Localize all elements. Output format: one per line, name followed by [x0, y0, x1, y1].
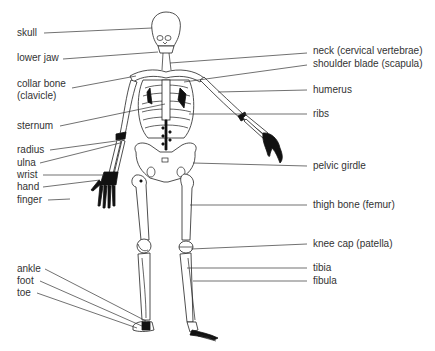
right-arm	[200, 77, 282, 163]
label-radius: radius	[17, 144, 44, 156]
label-toe: toe	[17, 287, 31, 299]
label-neck: neck (cervical vertebrae)	[313, 45, 422, 57]
label-ankle: ankle	[17, 263, 41, 275]
label-ribs: ribs	[313, 108, 329, 120]
right-leg	[179, 174, 218, 341]
label-finger: finger	[17, 194, 42, 206]
left-leg	[132, 175, 154, 332]
label-humerus: humerus	[313, 84, 352, 96]
label-wrist: wrist	[17, 169, 38, 181]
skull-shape	[152, 12, 181, 53]
label-tibia: tibia	[313, 262, 331, 274]
label-fibula: fibula	[313, 275, 337, 287]
label-shoulder-blade: shoulder blade (scapula)	[313, 58, 423, 70]
label-foot: foot	[17, 275, 34, 287]
label-lower-jaw: lower jaw	[17, 52, 59, 64]
label-hand: hand	[17, 181, 39, 193]
left-arm	[91, 80, 137, 208]
label-thigh-bone: thigh bone (femur)	[313, 199, 395, 211]
skeleton-diagram: skull lower jaw collar bone (clavicle) s…	[0, 0, 435, 351]
label-skull: skull	[17, 27, 37, 39]
label-sternum: sternum	[17, 120, 53, 132]
label-knee-cap: knee cap (patella)	[313, 238, 393, 250]
label-collar-bone: collar bone	[17, 78, 66, 90]
label-ulna: ulna	[17, 157, 36, 169]
label-clavicle: (clavicle)	[17, 90, 56, 102]
label-pelvic-girdle: pelvic girdle	[313, 160, 366, 172]
